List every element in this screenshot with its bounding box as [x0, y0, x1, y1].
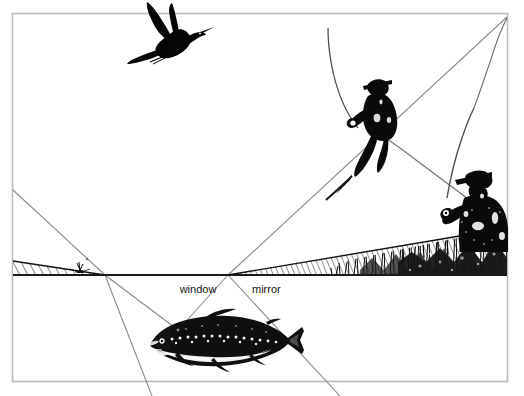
reel-far: [350, 120, 356, 126]
trout-window-mirror-diagram: window mirror: [0, 0, 524, 396]
sightline-origin-marker: [177, 329, 180, 332]
window-label: window: [179, 283, 217, 295]
mirror-label: mirror: [252, 283, 281, 295]
figure-canvas: window mirror: [0, 0, 524, 396]
